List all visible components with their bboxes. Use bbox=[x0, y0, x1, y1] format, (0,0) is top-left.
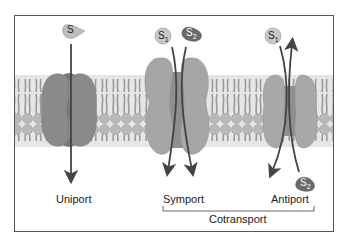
uniport-substrate-label: S bbox=[67, 24, 74, 35]
symport-s2-letter: S bbox=[186, 27, 193, 38]
antiport-s1-label: S1 bbox=[268, 30, 279, 43]
antiport-s2-letter: S bbox=[300, 177, 307, 188]
symport-s2-subscript: 2 bbox=[193, 33, 197, 40]
uniport-protein bbox=[42, 73, 97, 147]
symport-s1-letter: S bbox=[158, 30, 165, 41]
cotransport-bracket bbox=[163, 206, 314, 211]
uniport-label: Uniport bbox=[56, 193, 91, 205]
antiport-label: Antiport bbox=[271, 193, 309, 205]
symport-label: Symport bbox=[163, 193, 204, 205]
symport-protein bbox=[145, 58, 209, 154]
antiport-s2-label: S2 bbox=[300, 177, 311, 190]
symport-s1-subscript: 1 bbox=[165, 36, 169, 43]
symport-s1-label: S1 bbox=[158, 30, 169, 43]
antiport-s1-letter: S bbox=[268, 30, 275, 41]
symport-s2-label: S2 bbox=[186, 27, 197, 40]
membrane-diagram bbox=[0, 0, 344, 242]
antiport-s2-subscript: 2 bbox=[307, 183, 311, 190]
cotransport-label: Cotransport bbox=[209, 213, 266, 225]
antiport-s1-subscript: 1 bbox=[275, 36, 279, 43]
